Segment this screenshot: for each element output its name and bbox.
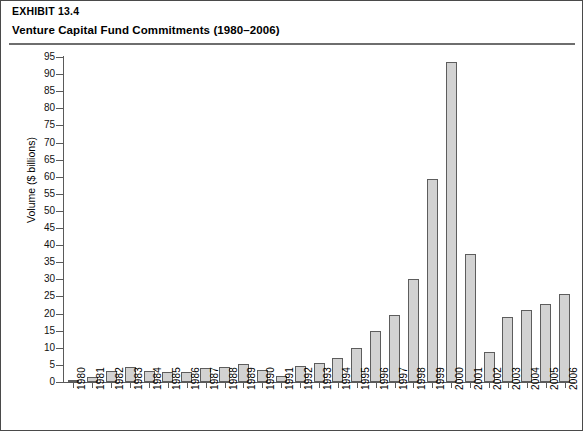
x-axis-tickmark [130, 383, 131, 388]
x-axis-tickmark [470, 383, 471, 388]
x-axis-tick-label: 1983 [134, 367, 144, 390]
x-axis-tick-label: 2002 [493, 367, 503, 390]
x-axis-tickmark [149, 383, 150, 388]
x-axis-tickmark [508, 383, 509, 388]
x-axis-tick-label: 1998 [417, 367, 427, 390]
x-axis-tick-label: 1992 [304, 367, 314, 390]
x-axis-tickmark [300, 383, 301, 388]
x-axis-tick-label: 2001 [474, 367, 484, 390]
x-axis-tick-label: 1999 [436, 367, 446, 390]
x-axis-tickmark [376, 383, 377, 388]
x-axis-tick-label: 1991 [285, 367, 295, 390]
x-axis-tick-label: 1980 [77, 367, 87, 390]
x-axis-tick-label: 1995 [361, 367, 371, 390]
x-axis-tickmark [92, 383, 93, 388]
x-axis-tickmark [338, 383, 339, 388]
x-axis-tick-label: 1981 [96, 367, 106, 390]
x-axis-tick-label: 1985 [172, 367, 182, 390]
x-axis-tickmark [546, 383, 547, 388]
exhibit-page: EXHIBIT 13.4 Venture Capital Fund Commit… [0, 0, 583, 431]
x-axis-tickmark [451, 383, 452, 388]
x-axis-tickmark [357, 383, 358, 388]
x-axis-tick-label: 2004 [531, 367, 541, 390]
x-axis-tickmark [489, 383, 490, 388]
x-axis-tickmark [243, 383, 244, 388]
x-axis-tick-label: 2003 [512, 367, 522, 390]
x-axis-tickmark [413, 383, 414, 388]
x-axis-tick-label: 2000 [455, 367, 465, 390]
x-axis-tickmark [111, 383, 112, 388]
x-axis-tick-label: 1986 [191, 367, 201, 390]
x-axis-tick-label: 1982 [115, 367, 125, 390]
x-axis-tickmark [395, 383, 396, 388]
x-axis-tick-label: 1997 [399, 367, 409, 390]
x-axis-tick-label: 1990 [266, 367, 276, 390]
x-axis-tick-label: 2006 [569, 367, 579, 390]
x-axis-tickmark [206, 383, 207, 388]
x-axis-tick-label: 1989 [247, 367, 257, 390]
x-axis-tick-label: 1996 [380, 367, 390, 390]
x-axis-tickmark [319, 383, 320, 388]
x-axis-tick-label: 1993 [323, 367, 333, 390]
x-axis-tick-label: 1987 [210, 367, 220, 390]
x-axis-tick-label: 2005 [550, 367, 560, 390]
x-axis-tick-label: 1988 [229, 367, 239, 390]
x-axis-tickmark [168, 383, 169, 388]
x-axis-tick-label: 1994 [342, 367, 352, 390]
x-axis-tickmark [281, 383, 282, 388]
x-axis-tickmark [73, 383, 74, 388]
x-axis-tickmark [225, 383, 226, 388]
x-axis-tickmark [187, 383, 188, 388]
x-axis-tickmark [527, 383, 528, 388]
x-axis-tick-label: 1984 [153, 367, 163, 390]
x-axis-tickmark [432, 383, 433, 388]
x-axis-tickmark [262, 383, 263, 388]
x-axis-tick-group: 1980198119821983198419851986198719881989… [1, 1, 583, 431]
x-axis-tickmark [565, 383, 566, 388]
